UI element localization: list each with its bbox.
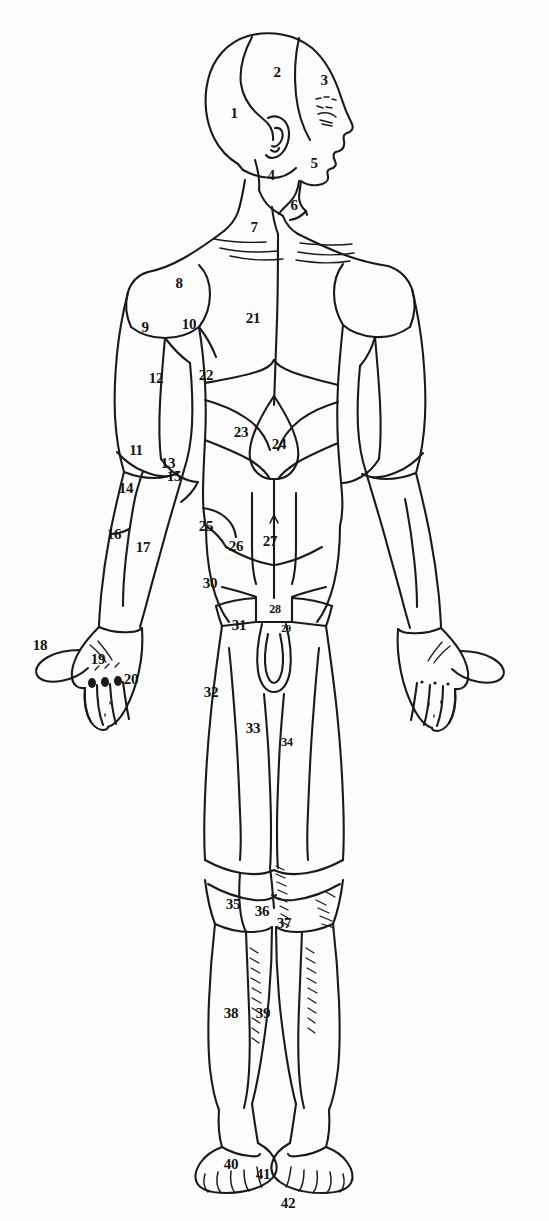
finger-5 xyxy=(85,688,91,722)
region-21-left-boundary xyxy=(205,360,274,383)
right-ankle-inner xyxy=(290,1104,296,1143)
face-profile-line xyxy=(248,33,353,215)
neck-left-line xyxy=(224,180,245,231)
right-arm-muscle-divider xyxy=(375,337,381,459)
left-ankle-inner xyxy=(252,1104,258,1143)
region-label-32: 32 xyxy=(204,685,218,700)
left-arm-group xyxy=(99,292,198,632)
region-label-11: 11 xyxy=(129,443,143,458)
right-instep-line xyxy=(288,1147,326,1156)
region-label-25: 25 xyxy=(199,519,213,534)
region-label-14: 14 xyxy=(119,481,133,496)
right-finger-4 xyxy=(437,686,443,726)
right-hand-outer xyxy=(441,628,468,689)
finger-3 xyxy=(110,684,116,724)
right-hip-outline xyxy=(317,526,340,622)
right-deltoid-outer xyxy=(388,266,414,327)
region-label-3: 3 xyxy=(320,73,327,88)
region-30-31-divider xyxy=(222,587,256,597)
left-thigh-inner xyxy=(264,694,271,868)
region-label-33: 33 xyxy=(246,721,260,736)
region-label-36: 36 xyxy=(255,904,269,919)
trapezius-hatch-left xyxy=(214,239,283,260)
right-calf-inner xyxy=(276,927,296,1104)
ear-lobe-line xyxy=(271,148,279,152)
region-label-40: 40 xyxy=(224,1157,238,1172)
face-detail-marks xyxy=(316,97,336,126)
left-knee-crease-upper xyxy=(205,860,274,874)
left-calf-outer xyxy=(208,924,219,1110)
region-label-21: 21 xyxy=(246,311,260,326)
popliteal-hatch-right xyxy=(316,892,335,928)
region-label-5: 5 xyxy=(310,156,317,171)
right-hand-group xyxy=(398,628,504,731)
region-label-19: 19 xyxy=(91,652,105,667)
region-label-16: 16 xyxy=(107,527,121,542)
region-23-right-boundary xyxy=(278,402,338,450)
left-upper-arm-outer xyxy=(115,292,128,472)
region-26-upper-right xyxy=(278,443,338,479)
right-calf-outer xyxy=(329,924,340,1110)
region-label-17: 17 xyxy=(136,540,150,555)
region-15-lower xyxy=(181,482,198,502)
region-1-2-boundary xyxy=(241,37,274,140)
head-group xyxy=(206,33,353,220)
region-label-2: 2 xyxy=(273,65,280,80)
region-label-23: 23 xyxy=(234,425,248,440)
region-35-36-lower xyxy=(208,884,276,900)
region-26-upper-boundary xyxy=(205,440,270,479)
calf-hatch-left xyxy=(250,948,261,1043)
region-28-right xyxy=(292,598,332,606)
right-forearm-inner xyxy=(366,472,410,628)
region-24-left-lobe xyxy=(250,396,274,479)
region-label-38: 38 xyxy=(224,1006,238,1021)
left-trapezius-line xyxy=(148,231,224,272)
region-label-6: 6 xyxy=(290,198,297,213)
region-37-divider xyxy=(270,868,274,908)
shoulder-group xyxy=(126,231,414,366)
region-label-41: 41 xyxy=(256,1167,270,1182)
region-label-12: 12 xyxy=(149,371,163,386)
region-label-22: 22 xyxy=(199,368,213,383)
region-label-8: 8 xyxy=(175,276,182,291)
region-label-10: 10 xyxy=(182,317,196,332)
neck-group xyxy=(224,180,298,234)
region-12-13-divider xyxy=(159,338,165,459)
right-upper-arm-inner xyxy=(358,366,366,472)
region-21-right-boundary xyxy=(274,360,338,385)
region-label-7: 7 xyxy=(250,220,257,235)
left-upper-arm-inner xyxy=(184,363,192,470)
region-label-31: 31 xyxy=(232,618,246,633)
right-thigh-divider xyxy=(307,648,319,860)
region-label-9: 9 xyxy=(141,320,148,335)
region-label-28: 28 xyxy=(269,603,280,615)
right-knee-crease-upper xyxy=(274,860,343,874)
region-30-upper-right xyxy=(274,547,322,565)
region-27-right-divider xyxy=(292,493,296,584)
right-forearm-outer xyxy=(416,473,441,628)
region-label-34: 34 xyxy=(281,736,292,748)
torso-left-outline xyxy=(199,327,206,526)
torso-right-outline xyxy=(337,325,343,526)
right-wrist-crease xyxy=(398,628,441,633)
region-label-18: 18 xyxy=(33,638,47,653)
skull-back-line xyxy=(206,36,248,170)
region-label-4: 4 xyxy=(267,168,274,183)
right-elbow-inner xyxy=(342,459,379,483)
region-label-15: 15 xyxy=(167,469,181,484)
region-label-26: 26 xyxy=(229,539,243,554)
region-35-36-divider xyxy=(239,873,246,932)
right-ankle-outer xyxy=(326,1110,329,1147)
region-label-1: 1 xyxy=(230,106,237,121)
right-knuckle-marks xyxy=(420,642,450,717)
legs-group xyxy=(204,626,344,1110)
region-2-3-boundary xyxy=(295,38,310,140)
right-finger-5 xyxy=(449,689,455,723)
finger-4 xyxy=(97,685,103,725)
region-26-27-divider xyxy=(252,493,256,584)
anatomical-diagram: 1234567891011121314151617181920212223242… xyxy=(0,0,549,1221)
feet-group xyxy=(196,1104,353,1193)
region-9-10-divider xyxy=(165,338,190,363)
right-foot-outline xyxy=(271,1143,352,1193)
right-deltoid-inner xyxy=(334,264,343,325)
